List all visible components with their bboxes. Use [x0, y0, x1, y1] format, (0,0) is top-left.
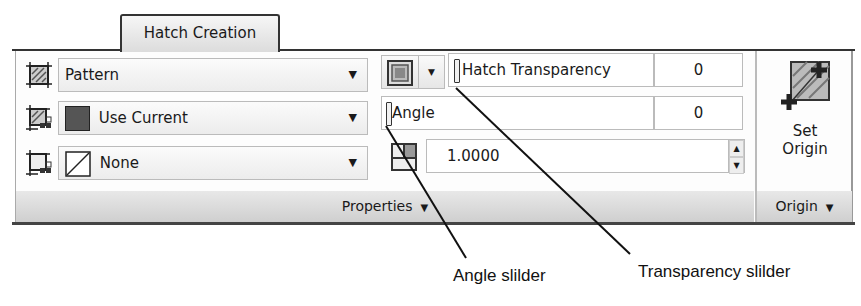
angle-slider-callout: Angle slilder — [453, 266, 546, 286]
tab-hatch-creation[interactable]: Hatch Creation — [120, 14, 280, 52]
transparency-slider-callout: Transparency slilder — [638, 262, 790, 282]
